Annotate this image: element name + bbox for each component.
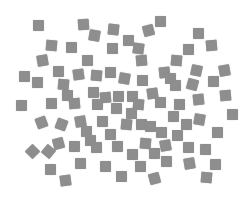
gray-square	[111, 103, 122, 114]
gray-square	[183, 142, 194, 153]
gray-square	[227, 109, 238, 120]
gray-square	[100, 161, 111, 172]
gray-square	[75, 158, 86, 169]
gray-square	[16, 100, 27, 111]
gray-square	[168, 111, 179, 122]
gray-square	[59, 174, 71, 186]
gray-square	[77, 18, 89, 30]
gray-square	[118, 72, 131, 85]
gray-square	[107, 23, 119, 35]
gray-square	[45, 164, 56, 175]
gray-square	[208, 76, 219, 87]
gray-square	[120, 118, 132, 130]
gray-square	[174, 99, 185, 110]
scatter-canvas	[0, 0, 251, 201]
gray-square	[210, 159, 221, 170]
gray-square	[82, 55, 93, 66]
gray-square	[62, 90, 73, 101]
gray-square	[127, 149, 138, 160]
gray-square	[91, 142, 102, 153]
gray-square	[54, 117, 68, 131]
gray-square	[170, 54, 182, 66]
gray-square	[170, 80, 181, 91]
gray-square	[155, 16, 166, 27]
gray-square	[183, 44, 194, 55]
gray-square	[135, 54, 147, 66]
gray-square	[132, 42, 144, 54]
gray-square	[193, 28, 204, 39]
gray-square	[19, 71, 30, 82]
gray-square	[172, 130, 183, 141]
gray-square	[189, 63, 202, 76]
gray-square	[53, 66, 64, 77]
gray-square	[147, 171, 160, 184]
gray-square	[218, 64, 231, 77]
gray-square	[34, 115, 48, 129]
gray-square	[137, 75, 148, 86]
gray-square	[149, 148, 160, 159]
gray-square	[183, 157, 196, 170]
gray-square	[155, 97, 166, 108]
gray-square	[46, 98, 57, 109]
gray-square	[105, 67, 116, 78]
gray-square	[92, 99, 103, 110]
gray-square	[145, 121, 156, 132]
gray-square	[135, 161, 146, 172]
gray-square	[161, 156, 172, 167]
gray-square	[105, 129, 116, 140]
gray-square	[81, 126, 92, 137]
gray-square	[32, 77, 43, 88]
gray-square	[97, 116, 108, 127]
gray-square	[141, 23, 154, 36]
gray-square	[24, 143, 40, 159]
gray-square	[66, 42, 77, 53]
gray-square	[113, 91, 124, 102]
gray-square	[185, 77, 198, 90]
gray-square	[200, 144, 211, 155]
gray-square	[90, 69, 102, 81]
gray-square	[51, 136, 64, 149]
gray-square	[156, 127, 167, 138]
gray-square	[116, 171, 127, 182]
gray-square	[219, 89, 231, 101]
gray-square	[45, 39, 57, 51]
gray-square	[107, 43, 118, 54]
gray-square	[57, 78, 69, 90]
gray-square	[72, 68, 84, 80]
gray-square	[88, 87, 99, 98]
gray-square	[193, 113, 206, 126]
gray-square	[36, 54, 49, 67]
gray-square	[181, 119, 192, 130]
gray-square	[212, 127, 223, 138]
gray-square	[192, 93, 204, 105]
gray-square	[159, 139, 172, 152]
gray-square	[33, 20, 44, 31]
gray-square	[126, 108, 137, 119]
gray-square	[88, 29, 101, 42]
gray-square	[200, 171, 212, 183]
gray-square	[69, 141, 80, 152]
gray-square	[205, 39, 217, 51]
gray-square	[123, 35, 134, 46]
gray-square	[112, 141, 123, 152]
